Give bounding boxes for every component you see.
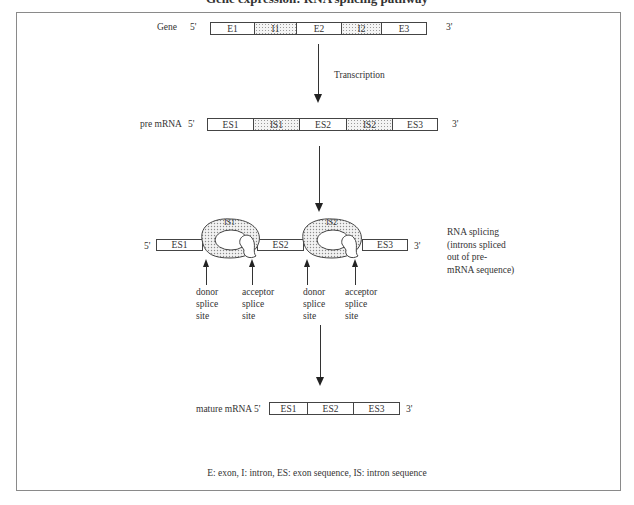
rna-splicing-note: RNA splicing (introns spliced out of pre… <box>447 226 514 276</box>
acceptor-site-arrow-1-shaft <box>252 266 253 285</box>
loop-label-is2: IS2 <box>326 218 337 227</box>
donor-site-arrow-1-shaft <box>206 266 207 285</box>
loop-label-is1: IS1 <box>224 218 235 227</box>
mature-mrna-3prime: 3' <box>406 404 412 414</box>
intron-loops <box>0 0 634 505</box>
mature-mrna-strand: ES1 ES2 ES3 <box>269 402 400 415</box>
mature-segment-es1: ES1 <box>270 403 308 414</box>
legend-text: E: exon, I: intron, ES: exon sequence, I… <box>0 468 634 478</box>
maturation-arrow-head <box>316 377 324 386</box>
acceptor-site-label-2: acceptorsplicesite <box>345 286 377 322</box>
donor-site-label-1: donorsplicesite <box>196 286 218 322</box>
donor-site-arrow-2-shaft <box>307 266 308 285</box>
acceptor-site-label-1: acceptorsplicesite <box>242 286 274 322</box>
mature-mrna-5prime: 5' <box>254 404 260 414</box>
maturation-arrow-shaft <box>320 325 321 378</box>
mature-segment-es3: ES3 <box>354 403 399 414</box>
acceptor-site-arrow-2-shaft <box>355 266 356 285</box>
mature-mrna-label: mature mRNA <box>196 404 252 414</box>
donor-site-label-2: donorsplicesite <box>303 286 325 322</box>
mature-segment-es2: ES2 <box>308 403 354 414</box>
